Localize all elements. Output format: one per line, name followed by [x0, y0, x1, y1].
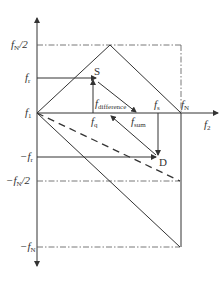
- label-neg-fr: −fr: [20, 151, 33, 164]
- dashed-diagonal: [37, 113, 180, 181]
- label-fsum: fsum: [131, 116, 146, 129]
- label-f1: f1: [25, 107, 32, 120]
- point-S: S: [94, 66, 100, 77]
- label-fN: fN: [181, 99, 189, 112]
- label-f2-axis: f2: [204, 119, 211, 132]
- label-fs: fs: [154, 99, 160, 112]
- label-neg-fN-half: −fN/2: [6, 175, 30, 188]
- label-fdifference: fdifference: [95, 98, 126, 111]
- lower-diagonal: [37, 113, 180, 247]
- point-D: D: [159, 157, 167, 168]
- label-neg-fN: −fN: [20, 241, 36, 254]
- label-fq: fq: [91, 116, 98, 129]
- label-fr: fr: [25, 72, 30, 85]
- label-fN-half: fN/2: [11, 39, 28, 52]
